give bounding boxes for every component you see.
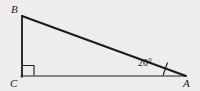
triangle-drawing xyxy=(0,0,200,91)
vertex-label-c: C xyxy=(10,78,17,89)
side-ba-hypotenuse-line xyxy=(22,16,186,76)
angle-measure-label-a: 20° xyxy=(138,58,152,68)
vertex-label-a: A xyxy=(183,78,190,89)
geometry-figure: B C A 20° xyxy=(0,0,200,91)
right-angle-square-marker xyxy=(23,66,34,76)
vertex-label-b: B xyxy=(11,4,18,15)
